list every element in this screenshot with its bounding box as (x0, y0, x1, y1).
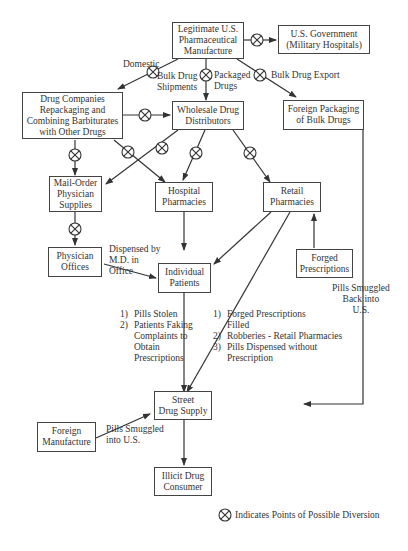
list-item: 3)Pills Dispensed without Prescription (213, 342, 342, 364)
label-dispensed-md: Dispensed by M.D. in Office (109, 244, 160, 277)
legend: Indicates Points of Possible Diversion (218, 508, 380, 522)
node-repackaging: Drug Companies Repackaging and Combining… (22, 92, 123, 139)
node-retail: Retail Pharmacies (263, 182, 321, 212)
node-foreign-manufacture: Foreign Manufacture (37, 422, 96, 452)
node-hospital: Hospital Pharmacies (155, 182, 213, 212)
node-physician-offices: Physician Offices (48, 247, 102, 277)
diversion-point-icon (218, 508, 232, 522)
node-government: U.S. Government (Military Hospitals) (278, 25, 370, 54)
node-mail-order: Mail-Order Physician Supplies (49, 176, 102, 212)
node-street-supply: Street Drug Supply (154, 391, 212, 420)
label-packaged-drugs: Packaged Drugs (214, 70, 250, 92)
patient-diversion-list: 1)Pills Stolen 2)Patients Faking Complai… (120, 309, 193, 364)
retail-diversion-list: 1)Forged Prescriptions Filled 2)Robberie… (213, 309, 342, 364)
list-item: 2)Patients Faking Complaints to Obtain P… (120, 320, 193, 364)
label-bulk-export: Bulk Drug Export (271, 70, 340, 81)
node-manufacture: Legitimate U.S. Pharmaceutical Manufactu… (172, 22, 244, 59)
list-item: 1)Forged Prescriptions Filled (213, 309, 342, 331)
list-item: 1)Pills Stolen (120, 309, 193, 320)
label-smuggled-into: Pills Smuggled into U.S. (106, 424, 164, 446)
node-consumer: Illicit Drug Consumer (154, 467, 212, 496)
node-forged-prescriptions: Forged Prescriptions (296, 249, 353, 278)
node-wholesale: Wholesale Drug Distributors (172, 101, 244, 130)
legend-text: Indicates Points of Possible Diversion (235, 510, 380, 520)
node-foreign-packaging: Foreign Packaging of Bulk Drugs (283, 100, 364, 130)
list-item: 2)Robberies - Retail Pharmacies (213, 331, 342, 342)
label-bulk-shipments: Bulk Drug Shipments (157, 71, 197, 93)
node-patients: Individual Patients (158, 263, 211, 293)
label-domestic: Domestic (123, 59, 159, 70)
